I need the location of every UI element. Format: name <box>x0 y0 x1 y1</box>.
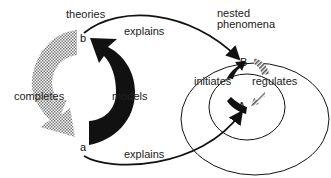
node-B-upper: B <box>240 56 247 68</box>
theories-label: theories <box>66 8 106 20</box>
node-a: a <box>80 141 87 153</box>
regulates-label: regulates <box>252 75 298 87</box>
phenomena-label: phenomena <box>217 18 276 30</box>
explains-top-label: explains <box>124 25 165 37</box>
completes-arrow-body <box>32 30 77 137</box>
regulates-arrow-upper <box>254 58 269 75</box>
initiates-label: initiates <box>194 75 232 87</box>
explains-bottom-label: explains <box>124 148 165 160</box>
completes-label: completes <box>14 90 65 102</box>
node-A-upper: A <box>238 100 246 112</box>
theories-phenomena-diagram: theories b a completes models explains e… <box>0 0 331 178</box>
node-b: b <box>80 32 86 44</box>
models-label: models <box>112 90 148 102</box>
regulates-arrow-lower <box>251 92 265 106</box>
